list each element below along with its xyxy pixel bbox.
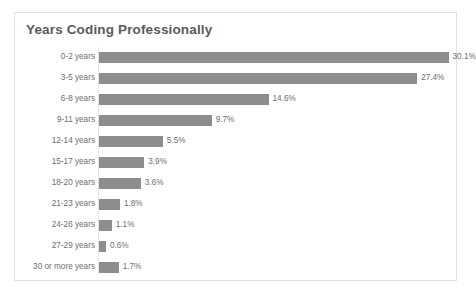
bar[interactable] [99,220,112,231]
category-label: 24-26 years [15,221,95,229]
bar-row: 24-26 years1.1% [15,215,456,236]
plot-area: 0-2 years30.1%3-5 years27.4%6-8 years14.… [15,47,456,274]
bar-value-label: 1.7% [123,263,142,271]
bar[interactable] [99,199,120,210]
bar[interactable] [99,94,269,105]
bar-track: 14.6% [99,94,454,105]
bar-track: 9.7% [99,115,454,126]
bar[interactable] [99,241,106,252]
bar-track: 3.9% [99,157,454,168]
bar-row: 0-2 years30.1% [15,47,456,68]
bar-track: 3.6% [99,178,454,189]
bar-row: 3-5 years27.4% [15,68,456,89]
bar-track: 1.7% [99,262,454,273]
bar-value-label: 30.1% [453,53,476,61]
category-label: 6-8 years [15,95,95,103]
chart-container: Years Coding Professionally 0-2 years30.… [14,12,457,281]
bar-value-label: 0.6% [110,242,129,250]
bar-row: 21-23 years1.8% [15,194,456,215]
bar-row: 12-14 years5.5% [15,131,456,152]
bar-track: 0.6% [99,241,454,252]
category-label: 9-11 years [15,116,95,124]
bar-value-label: 3.9% [148,158,167,166]
bar-row: 6-8 years14.6% [15,89,456,110]
bar[interactable] [99,115,212,126]
bar-row: 27-29 years0.6% [15,236,456,257]
bar-track: 5.5% [99,136,454,147]
bar-value-label: 5.5% [167,137,186,145]
bar[interactable] [99,178,141,189]
bar-row: 18-20 years3.6% [15,173,456,194]
bar-row: 30 or more years1.7% [15,257,456,278]
bar-row: 15-17 years3.9% [15,152,456,173]
bar-track: 30.1% [99,52,454,63]
category-label: 15-17 years [15,158,95,166]
chart-title: Years Coding Professionally [26,22,212,37]
category-label: 21-23 years [15,200,95,208]
category-label: 0-2 years [15,53,95,61]
category-label: 12-14 years [15,137,95,145]
bar-value-label: 1.1% [116,221,135,229]
bar-row: 9-11 years9.7% [15,110,456,131]
bar[interactable] [99,73,417,84]
bar-value-label: 3.6% [145,179,164,187]
bar[interactable] [99,262,119,273]
bar-track: 1.1% [99,220,454,231]
bar-value-label: 9.7% [216,116,235,124]
category-label: 18-20 years [15,179,95,187]
bar-value-label: 1.8% [124,200,143,208]
bar-value-label: 27.4% [421,74,444,82]
bar-value-label: 14.6% [273,95,296,103]
category-label: 27-29 years [15,242,95,250]
bar[interactable] [99,136,163,147]
bar[interactable] [99,52,449,63]
category-label: 30 or more years [15,263,95,271]
bar-track: 27.4% [99,73,454,84]
category-label: 3-5 years [15,74,95,82]
bar[interactable] [99,157,144,168]
bar-track: 1.8% [99,199,454,210]
